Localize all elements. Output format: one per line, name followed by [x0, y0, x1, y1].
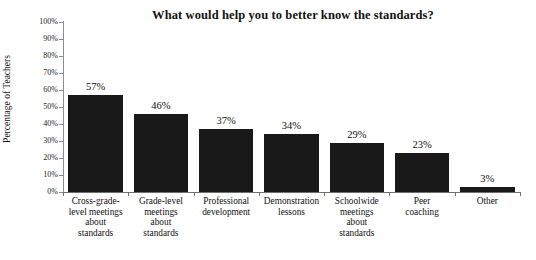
y-axis-tick-label: 30% [43, 135, 58, 146]
y-axis-tick-mark [59, 56, 63, 57]
category-label-line: coaching [389, 207, 454, 218]
category-label-line: level meetings [63, 207, 128, 218]
y-axis-tick-mark [59, 90, 63, 91]
bar-value-label: 3% [460, 173, 515, 185]
category-label-line: meetings [128, 207, 193, 218]
y-axis-tick-mark [59, 73, 63, 74]
category-label-line: standards [128, 228, 193, 239]
plot-area: 0%10%20%30%40%50%60%70%80%90%100% 57%46%… [63, 22, 520, 192]
y-axis-tick-mark [59, 22, 63, 23]
category-label-line: Professional [194, 196, 259, 207]
y-axis-tick-label: 40% [43, 118, 58, 129]
category-label-line: standards [324, 228, 389, 239]
bar-group: 46% [134, 22, 189, 192]
category-label-line: Demonstration [259, 196, 324, 207]
category-label-line: Peer [389, 196, 454, 207]
bar[interactable] [395, 153, 450, 192]
y-axis-tick-mark [59, 39, 63, 40]
x-axis-category-label: Grade-levelmeetingsaboutstandards [128, 196, 193, 238]
bar-value-label: 46% [134, 100, 189, 112]
bar-value-label: 29% [330, 129, 385, 141]
y-axis-tick-label: 50% [43, 101, 58, 112]
x-axis-line [63, 192, 520, 193]
x-axis-category-label: Professionaldevelopment [194, 196, 259, 217]
category-label-line: lessons [259, 207, 324, 218]
bar-group: 34% [264, 22, 319, 192]
category-label-line: Grade-level [128, 196, 193, 207]
bar[interactable] [330, 143, 385, 192]
y-axis-tick-label: 90% [43, 33, 58, 44]
y-axis-tick-label: 70% [43, 67, 58, 78]
x-axis-tick-mark [520, 192, 521, 196]
bar-group: 57% [68, 22, 123, 192]
bar[interactable] [460, 187, 515, 192]
y-axis-tick-mark [59, 107, 63, 108]
y-axis-tick-mark [59, 175, 63, 176]
category-label-line: development [194, 207, 259, 218]
bar-group: 29% [330, 22, 385, 192]
y-axis-tick-mark [59, 124, 63, 125]
y-axis-tick-label: 10% [43, 169, 58, 180]
chart-title: What would help you to better know the s… [63, 8, 523, 22]
y-axis-tick-label: 20% [43, 152, 58, 163]
category-label-line: standards [63, 228, 128, 239]
bar-chart-figure: What would help you to better know the s… [0, 0, 536, 260]
bar-group: 3% [460, 22, 515, 192]
category-label-line: about [128, 217, 193, 228]
category-label-line: about [63, 217, 128, 228]
bar[interactable] [264, 134, 319, 192]
y-axis-tick-label: 0% [47, 186, 58, 197]
bar-value-label: 34% [264, 120, 319, 132]
x-axis-category-label: Other [455, 196, 520, 207]
x-axis-category-label: Cross-grade-level meetingsaboutstandards [63, 196, 128, 238]
category-label-line: Cross-grade- [63, 196, 128, 207]
x-axis-category-label: Schoolwidemeetingsaboutstandards [324, 196, 389, 238]
category-label-line: about [324, 217, 389, 228]
bar[interactable] [68, 95, 123, 192]
y-axis-tick-label: 100% [39, 16, 58, 27]
category-label-line: Schoolwide [324, 196, 389, 207]
bar[interactable] [199, 129, 254, 192]
y-axis-tick-mark [59, 141, 63, 142]
bar-value-label: 57% [68, 81, 123, 93]
bar-group: 37% [199, 22, 254, 192]
category-label-line: meetings [324, 207, 389, 218]
bar[interactable] [134, 114, 189, 192]
bar-value-label: 37% [199, 115, 254, 127]
x-axis-tick-labels: Cross-grade-level meetingsaboutstandards… [63, 196, 520, 258]
y-axis-tick-label: 80% [43, 50, 58, 61]
bar-group: 23% [395, 22, 450, 192]
bar-value-label: 23% [395, 139, 450, 151]
category-label-line: Other [455, 196, 520, 207]
x-axis-category-label: Peercoaching [389, 196, 454, 217]
y-axis-title: Percentage of Teachers [0, 14, 14, 184]
y-axis-tick-label: 60% [43, 84, 58, 95]
y-axis-tick-mark [59, 158, 63, 159]
x-axis-category-label: Demonstrationlessons [259, 196, 324, 217]
